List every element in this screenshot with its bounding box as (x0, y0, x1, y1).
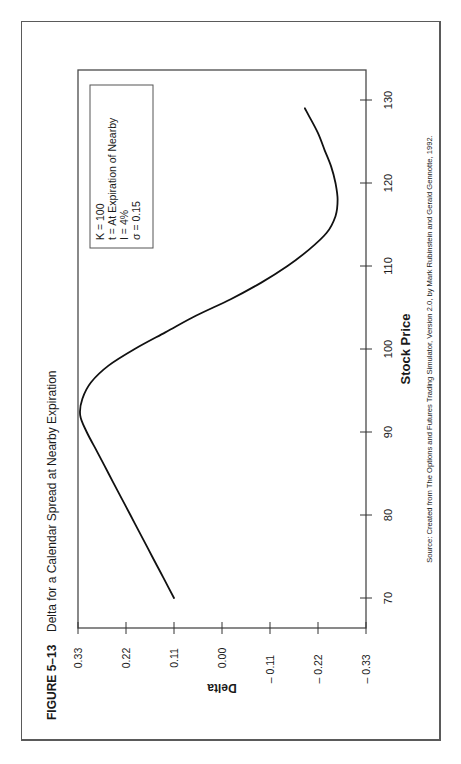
delta-tick-label: 0.33 (72, 648, 84, 669)
delta-tick-label: – 0.33 (360, 654, 372, 683)
delta-tick-label: 0.22 (120, 648, 132, 669)
legend-line: t = At Expiration of Nearby (106, 117, 118, 240)
delta-axis-title: Delta (207, 681, 237, 695)
figure-title: Delta for a Calendar Spread at Nearby Ex… (45, 371, 59, 632)
legend-line: K = 100 (94, 203, 106, 240)
delta-axis-labels: 0.330.220.110.00– 0.11– 0.22– 0.33 (72, 648, 372, 684)
stock-price-tick-label: 130 (382, 91, 394, 109)
figure-label: FIGURE 5–13 (45, 644, 59, 720)
stock-price-tick-label: 90 (382, 426, 394, 438)
stock-price-axis-labels: 708090100110120130 (382, 91, 394, 604)
stock-price-axis-title: Stock Price (398, 314, 413, 385)
delta-tick-label: 0.00 (216, 648, 228, 669)
stock-price-tick-label: 120 (382, 174, 394, 192)
delta-tick-label: – 0.11 (264, 655, 276, 684)
legend-line: I = 4% (118, 210, 130, 240)
stock-price-tick-label: 110 (382, 257, 394, 275)
chart: FIGURE 5–13 Delta for a Calendar Spread … (0, 0, 461, 764)
legend-line: σ = 0.15 (130, 201, 142, 240)
stock-price-tick-label: 70 (382, 592, 394, 604)
stock-price-tick-label: 80 (382, 509, 394, 521)
stock-price-tick-label: 100 (382, 340, 394, 358)
source-note: Source: Created from The Options and Fut… (425, 135, 434, 562)
delta-tick-label: – 0.22 (312, 654, 324, 683)
delta-tick-label: 0.11 (168, 648, 180, 668)
